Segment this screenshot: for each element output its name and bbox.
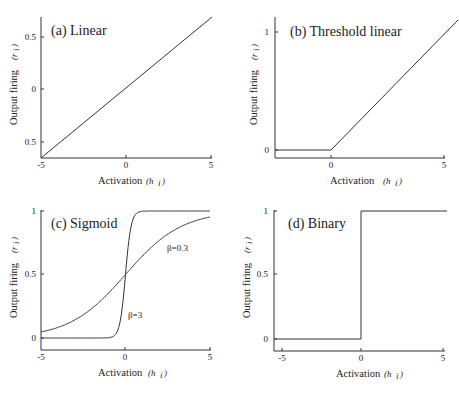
y-axis-label: Output firing: [241, 262, 252, 318]
svg-text:0: 0: [32, 84, 37, 94]
svg-text:i: i: [160, 370, 163, 380]
svg-text:1: 1: [32, 206, 37, 216]
svg-text:5: 5: [441, 353, 446, 363]
annotation-beta-0.3: β=0.3: [167, 243, 188, 253]
svg-text:): ): [399, 369, 403, 379]
svg-text:(r: (r: [249, 53, 259, 60]
annotation-beta-3: β=3: [128, 310, 143, 320]
svg-text:0: 0: [359, 353, 364, 363]
svg-text:i: i: [396, 371, 399, 381]
x-axis-label: Activation: [98, 175, 143, 186]
x-axis-label: Activation: [98, 367, 143, 378]
svg-text:1: 1: [265, 27, 270, 37]
y-axis-label: Output firing: [248, 69, 259, 125]
svg-text:5: 5: [442, 160, 447, 170]
svg-text:-5: -5: [37, 160, 45, 170]
threshold-linear-curve: [275, 20, 458, 150]
svg-text:): ): [242, 237, 252, 241]
svg-text:(h: (h: [146, 176, 154, 186]
svg-text:5: 5: [209, 160, 214, 170]
svg-text:0.5: 0.5: [257, 269, 269, 279]
svg-text:i: i: [395, 178, 398, 188]
svg-text:): ): [161, 176, 165, 186]
panel-a-linear: (a) Linear 0.5 0 0.5 -5 0 5 Activation (…: [8, 17, 214, 188]
svg-text:0: 0: [265, 145, 270, 155]
linear-curve: [41, 17, 212, 158]
svg-text:0: 0: [264, 334, 269, 344]
svg-text:0: 0: [123, 352, 128, 362]
panel-title: (a) Linear: [51, 23, 107, 39]
svg-text:0: 0: [32, 333, 37, 343]
svg-text:0: 0: [124, 160, 129, 170]
svg-text:i: i: [251, 48, 261, 51]
svg-text:): ): [9, 44, 19, 48]
svg-text:(h: (h: [383, 176, 391, 186]
svg-text:(h: (h: [384, 369, 392, 379]
svg-text:5: 5: [208, 352, 213, 362]
svg-text:0.5: 0.5: [25, 269, 37, 279]
x-axis-label: Activation: [336, 368, 381, 379]
panel-title: (b) Threshold linear: [290, 24, 402, 40]
y-axis-label: Output firing: [8, 69, 19, 125]
svg-text:i: i: [11, 48, 21, 51]
svg-text:0: 0: [329, 160, 334, 170]
panel-title: (d) Binary: [288, 216, 346, 232]
svg-text:(h: (h: [148, 368, 156, 378]
svg-text:): ): [398, 176, 402, 186]
svg-text:-5: -5: [278, 353, 286, 363]
panel-title: (c) Sigmoid: [51, 216, 118, 232]
panel-c-sigmoid: (c) Sigmoid 1 0.5 0 -5 0 5 β=0.3 β=3 Act…: [8, 206, 213, 380]
svg-text:0.5: 0.5: [25, 32, 37, 42]
svg-text:(r: (r: [9, 246, 19, 253]
svg-text:0.5: 0.5: [25, 137, 37, 147]
svg-text:(r: (r: [242, 246, 252, 253]
figure: (a) Linear 0.5 0 0.5 -5 0 5 Activation (…: [0, 0, 459, 397]
y-axis-label: Output firing: [8, 262, 19, 318]
svg-text:-5: -5: [37, 352, 45, 362]
svg-text:1: 1: [264, 206, 269, 216]
svg-text:(r: (r: [9, 53, 19, 60]
svg-text:i: i: [11, 241, 21, 244]
svg-text:): ): [249, 44, 259, 48]
svg-text:i: i: [158, 178, 161, 188]
svg-text:i: i: [244, 241, 254, 244]
svg-text:): ): [9, 237, 19, 241]
x-axis-label: Activation: [330, 175, 375, 186]
svg-text:): ): [163, 368, 167, 378]
panel-d-binary: (d) Binary 1 0.5 0 -5 0 5 Activation (h …: [241, 206, 447, 381]
panel-b-threshold-linear: (b) Threshold linear 1 0 0 5 Activation …: [248, 17, 458, 188]
